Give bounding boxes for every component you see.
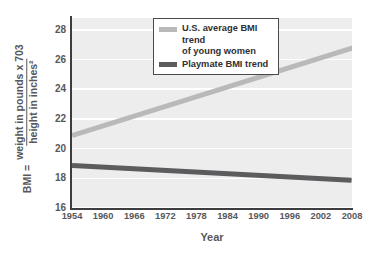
legend-label-us-average-line1: U.S. average BMI trend bbox=[182, 23, 257, 45]
x-tick-label-1984: 1984 bbox=[217, 212, 238, 221]
x-tick-label-2008: 2008 bbox=[342, 212, 363, 221]
legend-swatch-playmate bbox=[159, 62, 177, 67]
y-axis-line bbox=[70, 16, 72, 210]
series-line-playmate bbox=[72, 163, 352, 182]
y-axis-title: BMI = weight in pounds x 703 height in i… bbox=[14, 13, 40, 223]
y-axis-title-lhs: BMI = bbox=[21, 165, 33, 193]
x-tick-label-1972: 1972 bbox=[155, 212, 176, 221]
y-tick-label-20: 20 bbox=[55, 144, 66, 154]
y-axis-title-fraction: weight in pounds x 703 height in inches² bbox=[14, 42, 40, 162]
x-tick-label-1990: 1990 bbox=[248, 212, 269, 221]
x-tick-label-1996: 1996 bbox=[279, 212, 300, 221]
legend-item-us-average: U.S. average BMI trend of young women bbox=[159, 23, 273, 58]
y-tick-label-24: 24 bbox=[55, 84, 66, 94]
legend-label-us-average-line2: of young women bbox=[182, 46, 256, 56]
y-tick-label-28: 28 bbox=[55, 25, 66, 35]
legend-item-playmate: Playmate BMI trend bbox=[159, 59, 273, 71]
y-tick-label-26: 26 bbox=[55, 55, 66, 65]
x-tick-label-1960: 1960 bbox=[93, 212, 114, 221]
x-axis-tick-labels: 1954196019661972197819841990199620022008 bbox=[72, 212, 352, 228]
x-tick-label-1954: 1954 bbox=[62, 212, 83, 221]
y-tick-label-22: 22 bbox=[55, 114, 66, 124]
y-axis-title-numerator: weight in pounds x 703 bbox=[14, 42, 26, 162]
y-tick-label-18: 18 bbox=[55, 173, 66, 183]
legend-swatch-us-average bbox=[159, 27, 177, 32]
y-axis-title-denominator: height in inches² bbox=[26, 58, 40, 145]
x-axis-title: Year bbox=[72, 231, 352, 243]
x-tick-label-1978: 1978 bbox=[186, 212, 207, 221]
x-tick-label-1966: 1966 bbox=[124, 212, 145, 221]
gridline-y-20 bbox=[72, 148, 352, 150]
bmi-trend-chart: BMI = weight in pounds x 703 height in i… bbox=[0, 0, 376, 254]
legend-label-playmate: Playmate BMI trend bbox=[182, 59, 268, 71]
chart-legend: U.S. average BMI trend of young women Pl… bbox=[153, 18, 279, 75]
x-tick-label-2002: 2002 bbox=[311, 212, 332, 221]
legend-label-us-average: U.S. average BMI trend of young women bbox=[182, 23, 273, 58]
